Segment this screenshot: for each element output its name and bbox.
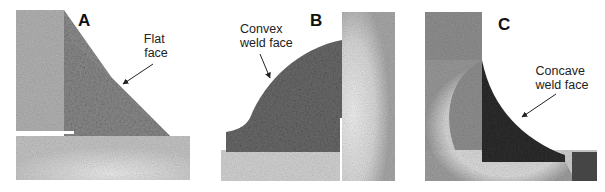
root-gap-a	[16, 131, 74, 134]
root-line-b	[340, 118, 342, 181]
weld-profile-figure: A Flat face B Convex weld face	[0, 0, 605, 192]
callout-convex-face: Convex weld face	[239, 22, 293, 50]
base-plate-b	[221, 150, 342, 181]
vertical-plate-b	[342, 12, 395, 181]
callout-concave-face: Concave weld face	[535, 64, 589, 92]
panel-b: B Convex weld face	[221, 11, 395, 181]
base-plate-a	[16, 136, 190, 180]
panel-label-c: C	[498, 15, 510, 34]
weld-bead-convex	[226, 40, 342, 152]
panel-label-b: B	[310, 11, 322, 30]
arrow-icon	[123, 64, 153, 84]
arrow-icon	[522, 94, 556, 117]
arrow-icon	[260, 54, 270, 78]
callout-flat-face: Flat face	[144, 32, 168, 60]
panel-label-a: A	[78, 11, 90, 30]
base-plate-right-c	[572, 152, 597, 181]
panel-c: C Concave weld face	[425, 12, 597, 181]
vertical-plate-a	[16, 10, 64, 132]
panel-a: A Flat face	[16, 10, 190, 180]
